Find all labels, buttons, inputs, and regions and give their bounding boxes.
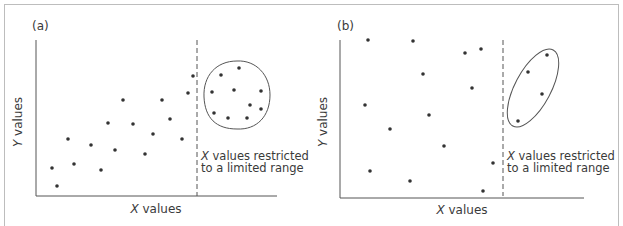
data-point	[481, 189, 485, 193]
panel-a-x-label: X values	[129, 202, 181, 216]
panel-b-y-label: Y values	[316, 97, 330, 147]
data-point	[363, 103, 367, 107]
data-point	[237, 66, 241, 70]
panel-a-label: (a)	[32, 19, 49, 33]
panel-b-annotation-line2: to a limited range	[507, 161, 610, 175]
data-point	[191, 74, 195, 78]
data-point	[151, 132, 155, 136]
panel-a-y-label: Y values	[11, 97, 25, 147]
data-point	[113, 148, 117, 152]
panel-b-x-label: X values	[435, 203, 487, 217]
data-point	[526, 70, 530, 74]
data-point	[72, 162, 76, 166]
data-point	[540, 92, 544, 96]
data-point	[219, 73, 223, 77]
data-point	[66, 137, 70, 141]
panel-b: (b) Y values X values X values restricte…	[316, 19, 615, 217]
data-point	[259, 89, 263, 93]
data-point	[168, 117, 172, 121]
panel-a-restricted-circle	[204, 61, 270, 129]
data-point	[245, 116, 249, 120]
data-point	[491, 161, 495, 165]
panel-a: (a) Y values X values X values restricte…	[11, 19, 309, 216]
data-point	[226, 116, 230, 120]
data-point	[232, 88, 236, 92]
data-point	[368, 169, 372, 173]
data-point	[479, 47, 483, 51]
figure-canvas: (a) Y values X values X values restricte…	[0, 0, 623, 226]
data-point	[212, 111, 216, 115]
data-point	[516, 119, 520, 123]
data-point	[106, 121, 110, 125]
data-point	[143, 152, 147, 156]
data-point	[442, 144, 446, 148]
data-point	[131, 122, 135, 126]
data-point	[55, 184, 59, 188]
panel-b-restricted-ellipse	[497, 42, 569, 135]
data-point	[545, 53, 549, 57]
data-point	[366, 38, 370, 42]
data-point	[388, 127, 392, 131]
data-point	[186, 91, 190, 95]
data-point	[180, 137, 184, 141]
panel-a-annotation-line2: to a limited range	[201, 161, 304, 175]
panel-b-label: (b)	[337, 19, 354, 33]
data-point	[50, 166, 54, 170]
data-point	[408, 179, 412, 183]
data-point	[427, 113, 431, 117]
data-point	[160, 98, 164, 102]
data-point	[210, 90, 214, 94]
data-point	[259, 107, 263, 111]
data-point	[121, 98, 125, 102]
data-point	[89, 143, 93, 147]
data-point	[411, 39, 415, 43]
data-point	[248, 103, 252, 107]
data-point	[99, 168, 103, 172]
data-point	[470, 86, 474, 90]
data-point	[463, 51, 467, 55]
data-point	[421, 72, 425, 76]
